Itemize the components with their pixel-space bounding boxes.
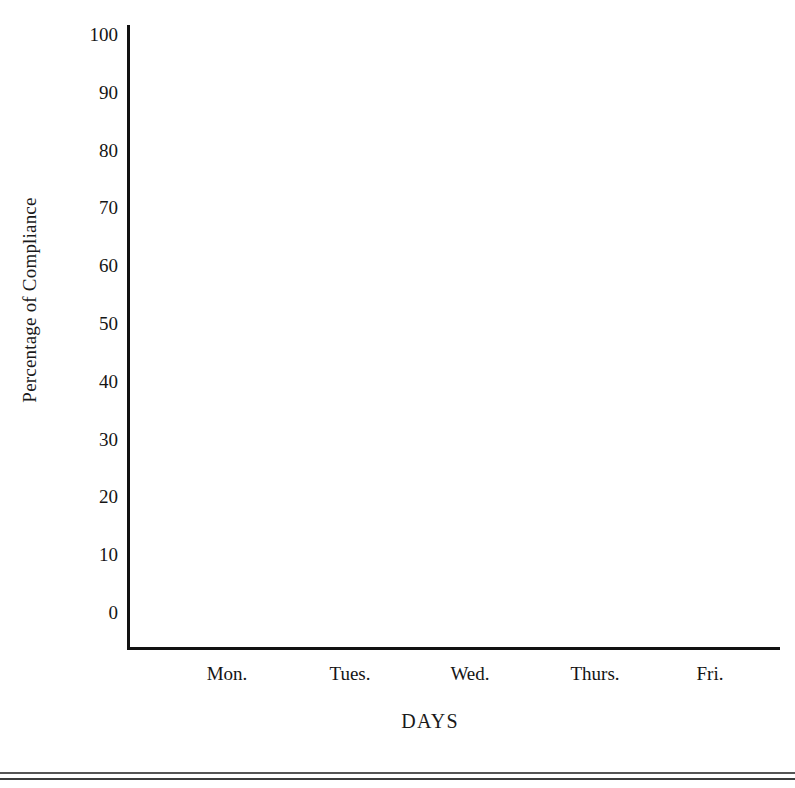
y-tick-label: 0 (48, 603, 118, 622)
y-tick-label: 40 (48, 372, 118, 391)
y-tick-label: 50 (48, 314, 118, 333)
y-tick-label: 70 (48, 198, 118, 217)
x-axis-label: DAYS (401, 710, 458, 733)
y-tick-label: 100 (48, 25, 118, 44)
x-tick-label: Thurs. (570, 664, 619, 683)
y-tick-label: 90 (48, 83, 118, 102)
chart-page: Percentage of Compliance 100908070605040… (0, 0, 795, 788)
x-tick-label: Fri. (697, 664, 724, 683)
x-tick-label: Mon. (207, 664, 248, 683)
y-tick-label: 60 (48, 256, 118, 275)
plot-area (130, 25, 780, 647)
page-rule-bottom (0, 778, 795, 780)
y-axis-label: Percentage of Compliance (19, 197, 41, 402)
x-axis-tick-labels: Mon.Tues.Wed.Thurs.Fri. (0, 664, 795, 694)
page-rule-top (0, 772, 795, 774)
x-axis-line (127, 647, 780, 650)
y-tick-label: 20 (48, 487, 118, 506)
y-axis-tick-labels: 1009080706050403020100 (48, 0, 118, 700)
x-tick-label: Wed. (450, 664, 489, 683)
y-tick-label: 30 (48, 430, 118, 449)
y-tick-label: 10 (48, 545, 118, 564)
y-tick-label: 80 (48, 141, 118, 160)
y-axis-line (127, 25, 130, 650)
x-tick-label: Tues. (329, 664, 370, 683)
